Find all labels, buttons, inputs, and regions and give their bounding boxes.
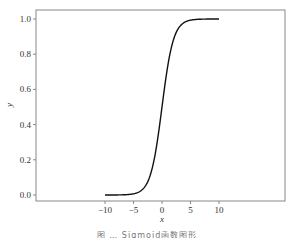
x-tick-label: −10 (98, 205, 113, 215)
plot-border (36, 10, 285, 201)
figure-caption: 图 … Sigmoid函数图形 (0, 229, 294, 238)
y-tick-label: 0.6 (20, 84, 32, 94)
sigmoid-chart: 0.00.20.40.60.81.0 −10−50510 x y (0, 0, 294, 238)
x-tick-label: −5 (129, 205, 139, 215)
x-tick-label: 5 (188, 205, 193, 215)
sigmoid-curve (105, 19, 219, 195)
y-tick-label: 0.4 (20, 120, 32, 130)
y-axis-ticks: 0.00.20.40.60.81.0 (20, 14, 36, 200)
y-tick-label: 0.2 (20, 155, 31, 165)
x-tick-label: 10 (215, 205, 225, 215)
y-tick-label: 0.0 (20, 190, 32, 200)
y-tick-label: 0.8 (20, 49, 32, 59)
x-axis-ticks: −10−50510 (98, 201, 224, 215)
y-axis-label: y (4, 103, 14, 108)
plot-frame (36, 10, 285, 201)
x-axis-label: x (159, 214, 164, 224)
y-tick-label: 1.0 (20, 14, 32, 24)
